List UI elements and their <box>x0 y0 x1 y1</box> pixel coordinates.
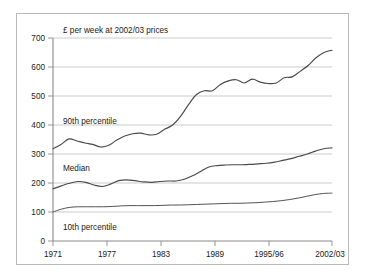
x-tick-labels: 1971 1977 1983 1989 1995/96 2002/03 <box>44 250 345 259</box>
x-tick-label-1989: 1989 <box>206 250 225 259</box>
y-tick-label-700: 700 <box>31 34 45 43</box>
y-tick-label-300: 300 <box>31 150 45 159</box>
series-label-90th-percentile: 90th percentile <box>63 117 117 126</box>
x-tick-label-1971: 1971 <box>44 250 63 259</box>
chart-title: £ per week at 2002/03 prices <box>63 26 168 35</box>
x-tick-label-1983: 1983 <box>152 250 171 259</box>
y-tick-label-100: 100 <box>31 208 45 217</box>
y-tick-label-600: 600 <box>31 63 45 72</box>
series-path-10th-percentile <box>53 193 332 212</box>
x-tick-label-2002-03: 2002/03 <box>315 250 345 259</box>
y-tick-label-0: 0 <box>40 237 45 246</box>
x-tick-label-1977: 1977 <box>98 250 117 259</box>
series-label-10th-percentile: 10th percentile <box>63 223 117 232</box>
series-label-median: Median <box>63 164 90 173</box>
x-tick-label-1995-96: 1995/96 <box>254 250 284 259</box>
y-tick-label-500: 500 <box>31 92 45 101</box>
series-path-90th-percentile <box>53 50 332 149</box>
chart-plot: 700 600 500 400 300 200 100 0 1971 1977 … <box>0 0 365 278</box>
y-tick-labels: 700 600 500 400 300 200 100 0 <box>31 34 45 246</box>
y-axis <box>48 38 53 241</box>
y-tick-label-200: 200 <box>31 179 45 188</box>
x-axis <box>53 241 332 246</box>
y-tick-label-400: 400 <box>31 121 45 130</box>
chart-figure: 700 600 500 400 300 200 100 0 1971 1977 … <box>0 0 365 278</box>
series-paths <box>53 50 332 212</box>
